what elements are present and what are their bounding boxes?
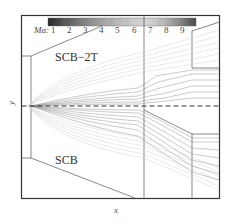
colorbar-tick: 5 bbox=[115, 25, 120, 35]
region-label-scb-2t: SCB−2T bbox=[55, 50, 98, 65]
colorbar-tick: 7 bbox=[148, 25, 153, 35]
colorbar-tick: 2 bbox=[67, 25, 72, 35]
colorbar-tick: 1 bbox=[51, 25, 56, 35]
plot-frame bbox=[22, 16, 220, 199]
colorbar-tick: 4 bbox=[99, 25, 104, 35]
flow-figure: Ma: 1 2 3 4 5 6 7 8 9 SCB−2T SCB y x bbox=[0, 0, 233, 221]
region-label-scb: SCB bbox=[55, 153, 78, 168]
x-axis-label: x bbox=[114, 205, 118, 215]
colorbar-tick: 3 bbox=[83, 25, 88, 35]
y-axis-label: y bbox=[6, 101, 16, 105]
colorbar-tick: 6 bbox=[132, 25, 137, 35]
colorbar-label: Ma: bbox=[34, 25, 49, 35]
colorbar-tick: 8 bbox=[164, 25, 169, 35]
colorbar-tick: 9 bbox=[180, 25, 185, 35]
